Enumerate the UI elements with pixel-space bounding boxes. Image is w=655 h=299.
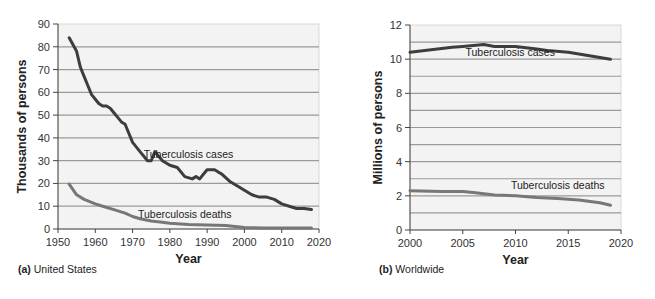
y-tick-label: 8 [396, 87, 402, 99]
y-tick-label: 40 [38, 132, 50, 144]
caption-worldwide-text: Worldwide [395, 263, 444, 275]
x-axis-title: Year [175, 252, 202, 266]
y-tick-label: 0 [44, 223, 50, 235]
y-axis-title: Millions of persons [371, 71, 385, 185]
y-tick-label: 80 [38, 41, 50, 53]
tb-charts: 0102030405060708090195019601970198019902… [0, 0, 655, 299]
y-tick-label: 50 [38, 109, 50, 121]
y-axis-title: Thousands of persons [15, 59, 29, 193]
x-axis-title: Year [502, 253, 529, 267]
x-tick-label: 2000 [398, 237, 422, 249]
y-tick-label: 60 [38, 86, 50, 98]
x-tick-label: 1990 [195, 236, 219, 248]
series-annotation: Tuberculosis deaths [511, 179, 605, 191]
y-tick-label: 0 [396, 224, 402, 236]
caption-us-label: (a) [18, 263, 31, 275]
series-annotation: Tuberculosis deaths [138, 208, 232, 220]
y-tick-label: 20 [38, 177, 50, 189]
x-tick-label: 2010 [269, 236, 293, 248]
x-tick-label: 2000 [232, 236, 256, 248]
x-tick-label: 1950 [46, 236, 70, 248]
x-tick-label: 2015 [556, 237, 580, 249]
x-tick-label: 2005 [451, 237, 475, 249]
y-tick-label: 90 [38, 18, 50, 30]
series-annotation: Tuberculosis cases [465, 46, 554, 58]
y-tick-label: 10 [390, 53, 402, 65]
caption-worldwide-label: (b) [379, 263, 392, 275]
x-tick-label: 1980 [158, 236, 182, 248]
caption-us: (a) United States [18, 263, 97, 275]
y-tick-label: 12 [390, 19, 402, 31]
x-tick-label: 2020 [307, 236, 331, 248]
x-tick-label: 2020 [609, 237, 633, 249]
x-tick-label: 2010 [503, 237, 527, 249]
chart-us: 0102030405060708090195019601970198019902… [15, 18, 331, 266]
y-tick-label: 30 [38, 155, 50, 167]
x-tick-label: 1970 [120, 236, 144, 248]
x-tick-label: 1960 [83, 236, 107, 248]
plot-area [58, 24, 319, 229]
y-tick-label: 4 [396, 156, 402, 168]
caption-us-text: United States [34, 263, 97, 275]
y-tick-label: 10 [38, 200, 50, 212]
series-annotation: Tuberculosis cases [144, 148, 233, 160]
y-tick-label: 2 [396, 190, 402, 202]
y-tick-label: 6 [396, 122, 402, 134]
y-tick-label: 70 [38, 64, 50, 76]
chart-worldwide: 02468101220002005201020152020YearMillion… [371, 19, 633, 267]
caption-worldwide: (b) Worldwide [379, 263, 444, 275]
